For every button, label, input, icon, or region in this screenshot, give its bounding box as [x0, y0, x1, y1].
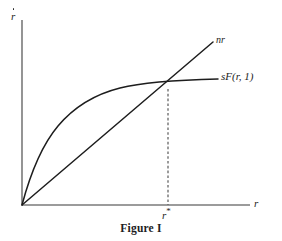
y-axis-label-glyph: r [11, 11, 15, 22]
figure-container: r r nr sF(r, 1) r* Figure I [0, 0, 282, 241]
plot-canvas [0, 0, 282, 241]
nr-series-label: nr [216, 35, 225, 45]
figure-caption: Figure I [0, 222, 282, 234]
sf-series-label-args: (r, 1) [232, 70, 253, 82]
sf-series-label-prefix: sF [221, 70, 232, 82]
equilibrium-tick-label: r* [162, 207, 171, 221]
nr-ray [22, 42, 213, 205]
equilibrium-tick-star: * [166, 206, 171, 216]
y-axis-label: r [11, 11, 15, 22]
x-axis-label: r [254, 198, 258, 209]
sf-curve [22, 79, 218, 205]
sf-series-label: sF(r, 1) [221, 71, 253, 82]
